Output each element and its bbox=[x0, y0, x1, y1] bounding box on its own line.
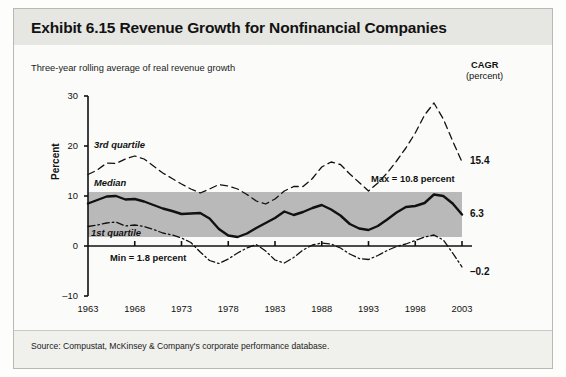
y-tick-label: 30 bbox=[52, 90, 78, 101]
source-divider bbox=[14, 330, 552, 331]
y-tick-label: 0 bbox=[52, 240, 78, 251]
annotation-max: Max = 10.8 percent bbox=[371, 173, 455, 184]
annotation-third-quartile: 3rd quartile bbox=[94, 139, 145, 150]
x-tick-label: 1968 bbox=[115, 303, 155, 314]
annotation-median: Median bbox=[94, 177, 126, 188]
source-note: Source: Compustat, McKinsey & Company's … bbox=[31, 341, 329, 351]
x-tick-label: 2003 bbox=[442, 303, 482, 314]
annotation-min: Min = 1.8 percent bbox=[110, 252, 186, 263]
x-tick-label: 1973 bbox=[162, 303, 202, 314]
cagr-value-first-quartile: –0.2 bbox=[470, 266, 489, 277]
y-tick-label: 10 bbox=[52, 190, 78, 201]
page-title: Exhibit 6.15 Revenue Growth for Nonfinan… bbox=[31, 19, 447, 37]
cagr-value-third-quartile: 15.4 bbox=[470, 155, 489, 166]
cagr-column-unit: (percent) bbox=[466, 71, 503, 81]
cagr-column-header: CAGR bbox=[471, 60, 498, 70]
exhibit-figure: Exhibit 6.15 Revenue Growth for Nonfinan… bbox=[0, 0, 566, 377]
x-tick-label: 1978 bbox=[208, 303, 248, 314]
annotation-first-quartile: 1st quartile bbox=[91, 227, 141, 238]
x-tick-label: 1993 bbox=[349, 303, 389, 314]
x-tick-label: 1988 bbox=[302, 303, 342, 314]
y-tick-label: 20 bbox=[52, 140, 78, 151]
x-tick-label: 1998 bbox=[395, 303, 435, 314]
cagr-value-median: 6.3 bbox=[470, 208, 484, 219]
y-tick-label: –10 bbox=[52, 290, 78, 301]
x-tick-label: 1963 bbox=[68, 303, 108, 314]
x-tick-label: 1983 bbox=[255, 303, 295, 314]
chart-subtitle: Three-year rolling average of real reven… bbox=[31, 63, 235, 73]
